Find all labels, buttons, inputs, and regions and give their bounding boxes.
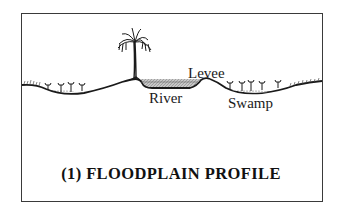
right-swamp-plants xyxy=(227,80,281,91)
label-river: River xyxy=(149,91,182,106)
ground-profile-line-left xyxy=(22,79,136,94)
label-levee: Levee xyxy=(188,66,225,81)
figure-caption: (1) FLOODPLAIN PROFILE xyxy=(0,164,342,184)
tree-icon xyxy=(118,28,151,80)
label-swamp: Swamp xyxy=(228,96,273,111)
